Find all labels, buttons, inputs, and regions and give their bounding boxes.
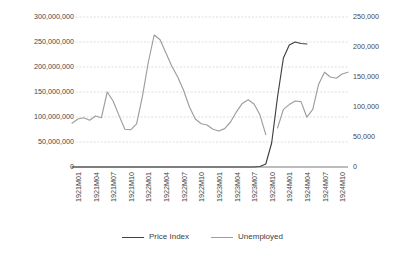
legend-label: Price Index xyxy=(149,233,189,241)
y-axis-left-tick: 150,000,000 xyxy=(34,88,74,95)
y-axis-left-tick: 200,000,000 xyxy=(34,63,74,70)
y-axis-left-tick: 100,000,000 xyxy=(34,113,74,120)
legend-line-icon xyxy=(122,237,144,238)
y-axis-left-tick: 50,000,000 xyxy=(38,138,74,145)
y-axis-right-tick: 100,000 xyxy=(353,103,379,110)
y-axis-right-tick: 50,000 xyxy=(353,133,375,140)
legend-line-icon xyxy=(211,237,233,238)
series-line-unemployed xyxy=(72,35,266,135)
y-axis-right-tick: 250,000 xyxy=(353,13,379,20)
y-axis-left-tick: 300,000,000 xyxy=(34,13,74,20)
chart-legend: Price IndexUnemployed xyxy=(0,233,405,241)
y-axis-right-tick: 150,000 xyxy=(353,73,379,80)
chart-container: 300,000,000250,000,000200,000,000150,000… xyxy=(0,0,405,254)
y-axis-left-tick: 250,000,000 xyxy=(34,38,74,45)
legend-item[interactable]: Unemployed xyxy=(211,233,283,241)
legend-item[interactable]: Price Index xyxy=(122,233,189,241)
series-line-unemployed xyxy=(278,72,348,128)
series-line-price-index xyxy=(72,42,307,167)
y-axis-right-tick: 200,000 xyxy=(353,43,379,50)
plot-svg xyxy=(72,17,348,167)
y-axis-right-tick: 0 xyxy=(353,163,357,170)
legend-label: Unemployed xyxy=(238,233,283,241)
plot-area xyxy=(72,17,348,167)
